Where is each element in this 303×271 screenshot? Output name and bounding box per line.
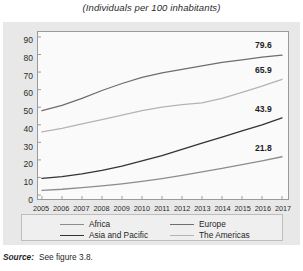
x-tick-label: 2014 bbox=[212, 204, 234, 213]
series-line bbox=[42, 79, 282, 132]
x-tick-label: 2017 bbox=[272, 204, 294, 213]
series-line bbox=[42, 55, 282, 111]
legend-item[interactable]: The Americas bbox=[170, 230, 250, 241]
y-tick-label: 50 bbox=[7, 106, 33, 116]
x-tick-label: 2007 bbox=[70, 204, 92, 213]
series-end-label: 65.9 bbox=[255, 65, 272, 75]
series-line bbox=[42, 157, 282, 191]
series-end-label: 21.8 bbox=[255, 143, 272, 153]
legend-swatch-icon bbox=[60, 224, 84, 225]
series-paths bbox=[38, 37, 282, 199]
y-tick-label: 10 bbox=[7, 177, 33, 187]
x-tick-label: 2013 bbox=[191, 204, 213, 213]
lines-svg bbox=[38, 32, 288, 199]
chart-title: (Individuals per 100 inhabitants) bbox=[0, 2, 303, 13]
legend-swatch-icon bbox=[170, 235, 194, 236]
y-tick-label: 20 bbox=[7, 159, 33, 169]
x-tick-label: 2005 bbox=[30, 204, 52, 213]
source-label: Source: bbox=[3, 252, 34, 262]
x-tick-label: 2015 bbox=[232, 204, 254, 213]
y-tick-label: 80 bbox=[7, 53, 33, 63]
chart-legend: AfricaAsia and PacificEuropeThe Americas bbox=[21, 214, 283, 241]
x-tick-label: 2009 bbox=[111, 204, 133, 213]
legend-item[interactable]: Africa bbox=[60, 219, 110, 230]
x-tick-label: 2010 bbox=[131, 204, 153, 213]
chart-panel: 0102030405060708090 20052006200720082009… bbox=[3, 22, 300, 245]
x-tick-label: 2016 bbox=[252, 204, 274, 213]
y-tick-label: 40 bbox=[7, 124, 33, 134]
source-note: Source:See figure 3.8. bbox=[3, 252, 300, 262]
legend-swatch-icon bbox=[170, 224, 194, 225]
y-tick-label: 60 bbox=[7, 88, 33, 98]
x-tick-label: 2008 bbox=[91, 204, 113, 213]
legend-items: AfricaAsia and PacificEuropeThe Americas bbox=[22, 215, 282, 240]
legend-item[interactable]: Europe bbox=[170, 219, 226, 230]
y-axis-labels: 0102030405060708090 bbox=[5, 26, 33, 205]
legend-label: Asia and Pacific bbox=[89, 230, 148, 241]
y-tick-label: 30 bbox=[7, 142, 33, 152]
legend-item[interactable]: Asia and Pacific bbox=[60, 230, 148, 241]
y-tick-label: 90 bbox=[7, 35, 33, 45]
figure-container: (Individuals per 100 inhabitants) 010203… bbox=[0, 0, 303, 271]
legend-label: The Americas bbox=[199, 230, 250, 241]
legend-label: Africa bbox=[89, 219, 110, 230]
x-tick-label: 2006 bbox=[50, 204, 72, 213]
series-end-label: 79.6 bbox=[255, 40, 272, 50]
series-line bbox=[42, 118, 282, 178]
plot-area bbox=[37, 31, 289, 200]
y-tick-label: 70 bbox=[7, 71, 33, 81]
legend-swatch-icon bbox=[60, 235, 84, 236]
x-tick-label: 2011 bbox=[151, 204, 173, 213]
legend-label: Europe bbox=[199, 219, 226, 230]
source-text: See figure 3.8. bbox=[39, 252, 93, 262]
series-end-label: 43.9 bbox=[255, 104, 272, 114]
x-tick-label: 2012 bbox=[171, 204, 193, 213]
